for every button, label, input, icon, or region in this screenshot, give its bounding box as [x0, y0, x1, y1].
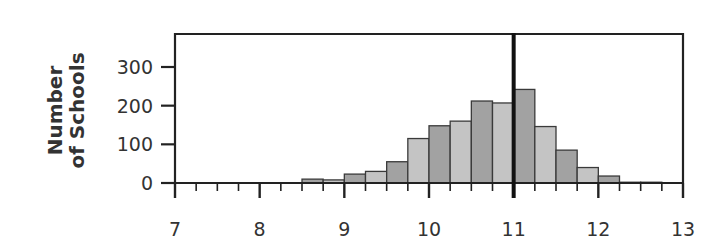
x-tick-label: 8: [254, 218, 266, 240]
histogram-chart: Numberof Schools 0100200300 78910111213: [0, 0, 726, 252]
y-axis-title-line: Number: [43, 66, 67, 156]
x-tick-label: 7: [169, 218, 181, 240]
x-tick-label: 10: [417, 218, 441, 240]
histogram-bar: [471, 101, 492, 183]
histogram-bar: [577, 168, 598, 183]
histogram-bar: [535, 127, 556, 183]
y-tick-label: 0: [141, 172, 153, 194]
x-tick-label: 12: [586, 218, 610, 240]
histogram-bar: [450, 121, 471, 183]
y-tick-label: 200: [117, 95, 153, 117]
y-axis-ticks: 0100200300: [117, 56, 175, 194]
histogram-bars: [302, 89, 662, 183]
x-tick-label: 13: [671, 218, 695, 240]
histogram-bar: [556, 150, 577, 183]
y-axis-label: Numberof Schools: [43, 52, 89, 168]
x-axis-ticks: 78910111213: [169, 183, 695, 240]
histogram-bar: [366, 171, 387, 183]
histogram-bar: [387, 162, 408, 183]
histogram-bar: [514, 89, 535, 183]
histogram-bar: [429, 126, 450, 183]
x-tick-label: 9: [338, 218, 350, 240]
histogram-bar: [493, 103, 514, 183]
x-tick-label: 11: [502, 218, 526, 240]
y-tick-label: 100: [117, 133, 153, 155]
y-axis-title-line: of Schools: [65, 52, 89, 168]
histogram-bar: [408, 139, 429, 183]
histogram-bar: [344, 174, 365, 183]
y-tick-label: 300: [117, 56, 153, 78]
